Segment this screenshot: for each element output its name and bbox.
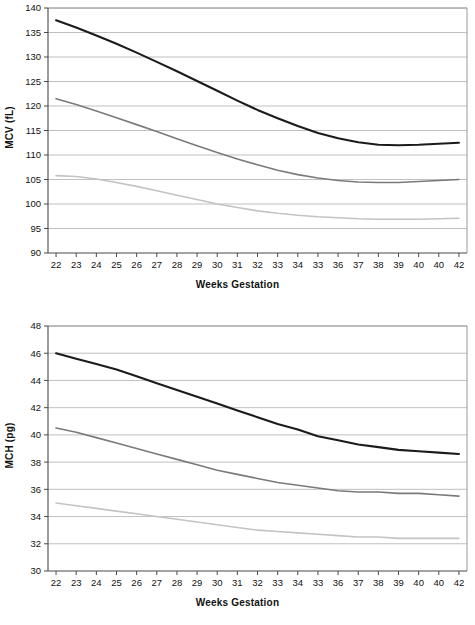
mcv-x-tick-label: 42: [454, 259, 465, 270]
mcv-x-tick-label: 22: [51, 259, 62, 270]
mch-x-tick-label: 34: [292, 577, 303, 588]
mch-x-tick-label: 38: [373, 577, 384, 588]
mcv-x-tick-label: 27: [151, 259, 162, 270]
mcv-x-tick-label: 33: [313, 259, 324, 270]
mch-y-axis-title-text: MCH (pg): [4, 422, 15, 468]
mcv-series-upper: [56, 20, 459, 145]
mch-series-upper: [56, 353, 459, 454]
mch-x-tick-label: 26: [131, 577, 142, 588]
mcv-x-tick-label: 37: [353, 259, 364, 270]
mch-x-tick-label: 32: [252, 577, 263, 588]
mch-x-tick-label: 40: [434, 577, 445, 588]
mcv-x-tick-label: 25: [111, 259, 122, 270]
mch-y-axis-title: MCH (pg): [0, 318, 18, 573]
mch-x-tick-label: 36: [333, 577, 344, 588]
mcv-x-tick-label: 33: [272, 259, 283, 270]
mcv-y-tick-label: 135: [25, 27, 41, 38]
mcv-x-tick-label: 28: [172, 259, 183, 270]
mch-chart: MCH (pg) 3032343638404244464822232425262…: [0, 318, 475, 623]
mch-plot-area: 3032343638404244464822232425262728293031…: [18, 318, 473, 593]
mch-x-tick-label: 22: [51, 577, 62, 588]
mcv-x-tick-label: 38: [373, 259, 384, 270]
mcv-y-tick-label: 125: [25, 76, 41, 87]
mch-x-tick-label: 24: [91, 577, 102, 588]
mch-x-tick-label: 28: [172, 577, 183, 588]
mch-x-tick-label: 31: [232, 577, 243, 588]
mcv-x-tick-label: 30: [212, 259, 223, 270]
mcv-y-tick-label: 105: [25, 174, 41, 185]
mcv-x-tick-label: 39: [393, 259, 404, 270]
mch-x-tick-label: 40: [413, 577, 424, 588]
mch-x-tick-label: 33: [313, 577, 324, 588]
mch-y-tick-label: 42: [30, 402, 41, 413]
mcv-x-tick-label: 29: [192, 259, 203, 270]
mcv-x-tick-label: 40: [413, 259, 424, 270]
mch-x-tick-label: 33: [272, 577, 283, 588]
mcv-y-tick-label: 110: [26, 149, 41, 160]
mch-y-tick-label: 46: [30, 348, 41, 359]
mch-y-tick-label: 44: [30, 375, 41, 386]
mcv-y-tick-label: 130: [25, 51, 41, 62]
mch-x-tick-label: 29: [192, 577, 203, 588]
mch-x-tick-label: 25: [111, 577, 122, 588]
mch-x-axis-title: Weeks Gestation: [0, 597, 475, 608]
mcv-series-middle: [56, 99, 459, 183]
mch-y-tick-label: 36: [30, 484, 41, 495]
figure-two-line-charts: MCV (fL) 9095100105110115120125130135140…: [0, 0, 475, 625]
mcv-y-tick-label: 120: [25, 100, 41, 111]
mch-x-tick-label: 30: [212, 577, 223, 588]
mch-x-tick-label: 39: [393, 577, 404, 588]
mcv-y-tick-label: 100: [25, 198, 41, 209]
mcv-x-tick-label: 34: [292, 259, 303, 270]
mch-y-tick-label: 30: [30, 565, 41, 576]
mch-y-tick-label: 48: [30, 320, 41, 331]
mch-x-tick-label: 37: [353, 577, 364, 588]
mcv-x-tick-label: 32: [252, 259, 263, 270]
mch-plot-svg: 3032343638404244464822232425262728293031…: [18, 318, 473, 593]
mcv-plot-area: 9095100105110115120125130135140222324252…: [18, 0, 473, 275]
mcv-y-tick-label: 90: [30, 247, 41, 258]
mch-series-lower: [56, 503, 459, 538]
mch-x-tick-label: 27: [151, 577, 162, 588]
mcv-y-tick-label: 115: [26, 125, 41, 136]
mch-y-tick-label: 32: [30, 538, 41, 549]
mcv-plot-svg: 9095100105110115120125130135140222324252…: [18, 0, 473, 275]
mcv-y-tick-label: 95: [30, 223, 41, 234]
mcv-x-tick-label: 23: [71, 259, 82, 270]
mcv-x-tick-label: 31: [232, 259, 243, 270]
mcv-x-tick-label: 36: [333, 259, 344, 270]
mcv-chart: MCV (fL) 9095100105110115120125130135140…: [0, 0, 475, 305]
mcv-y-axis-title: MCV (fL): [0, 0, 18, 255]
mcv-x-axis-title: Weeks Gestation: [0, 279, 475, 290]
mch-y-tick-label: 34: [30, 511, 41, 522]
mcv-y-axis-title-text: MCV (fL): [4, 106, 15, 149]
mcv-y-tick-label: 140: [25, 2, 41, 13]
mcv-x-tick-label: 26: [131, 259, 142, 270]
mcv-x-tick-label: 24: [91, 259, 102, 270]
mch-y-tick-label: 38: [30, 457, 41, 468]
mch-x-tick-label: 42: [454, 577, 465, 588]
mch-y-tick-label: 40: [30, 429, 41, 440]
mcv-x-tick-label: 40: [434, 259, 445, 270]
mch-x-tick-label: 23: [71, 577, 82, 588]
